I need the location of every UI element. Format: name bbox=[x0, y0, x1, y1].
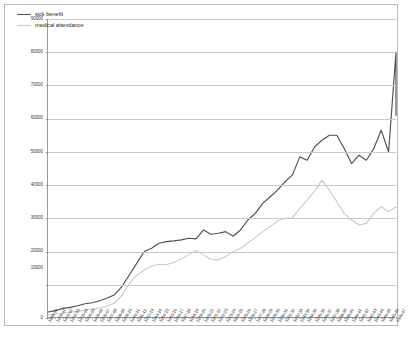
y-tick-mark bbox=[46, 218, 48, 219]
gridline bbox=[48, 218, 396, 219]
y-tick-mark bbox=[46, 119, 48, 120]
y-tick-mark bbox=[46, 85, 48, 86]
y-axis-label: 50000 bbox=[5, 150, 43, 155]
chart-legend: sick benefit medical attendance bbox=[17, 9, 84, 31]
gridline bbox=[48, 52, 396, 53]
legend-item-sick-benefit: sick benefit bbox=[17, 9, 84, 20]
legend-swatch-medical-attendance bbox=[17, 25, 31, 26]
series-line-medical-attendance bbox=[48, 180, 396, 315]
gridline bbox=[48, 85, 396, 86]
chart-frame: 9000080000700006000050000400003000020000… bbox=[4, 4, 398, 326]
y-tick-mark bbox=[46, 252, 48, 253]
y-axis-label: 70000 bbox=[5, 83, 43, 88]
series-lines bbox=[48, 19, 396, 318]
y-axis-label: 0 bbox=[5, 316, 43, 321]
y-tick-mark bbox=[46, 185, 48, 186]
y-axis-label: 30000 bbox=[5, 216, 43, 221]
y-tick-mark bbox=[46, 285, 48, 286]
legend-label-sick-benefit: sick benefit bbox=[35, 12, 63, 18]
gridline bbox=[48, 285, 396, 286]
y-tick-mark bbox=[46, 152, 48, 153]
legend-item-medical-attendance: medical attendance bbox=[17, 20, 84, 31]
y-tick-mark bbox=[46, 52, 48, 53]
gridline bbox=[48, 252, 396, 253]
gridline bbox=[48, 19, 396, 20]
y-axis-label: 80000 bbox=[5, 50, 43, 55]
series-line-sick-benefit bbox=[48, 52, 396, 312]
y-axis-label: 60000 bbox=[5, 116, 43, 121]
gridline bbox=[48, 119, 396, 120]
legend-swatch-sick-benefit bbox=[17, 14, 31, 15]
y-axis-label: 15000 bbox=[5, 266, 43, 271]
gridline bbox=[48, 185, 396, 186]
legend-label-medical-attendance: medical attendance bbox=[35, 23, 84, 29]
y-axis-label: 20000 bbox=[5, 249, 43, 254]
plot-area bbox=[47, 19, 395, 318]
y-axis-label: 40000 bbox=[5, 183, 43, 188]
gridline bbox=[48, 152, 396, 153]
